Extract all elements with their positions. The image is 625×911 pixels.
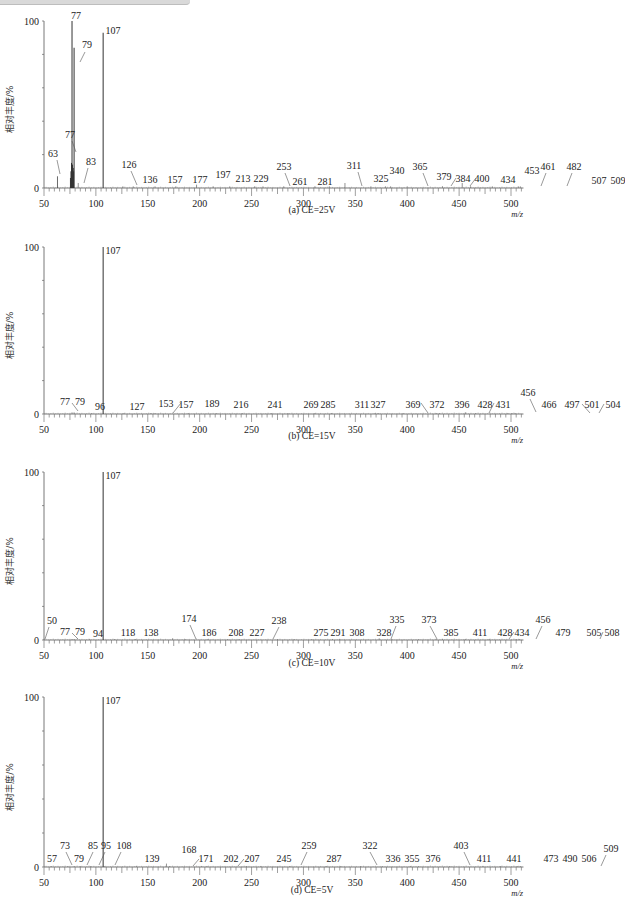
label-leader-line [238,859,244,866]
label-leader-line [464,852,470,865]
peak-label: 77 [60,396,70,407]
peak-label: 107 [106,25,121,36]
peak-label: 216 [234,399,249,410]
x-tick-label: 250 [244,877,259,888]
peak-label: 208 [229,627,244,638]
peak-label: 213 [236,173,251,184]
x-tick-label: 50 [39,198,49,209]
peak-label: 355 [405,853,420,864]
peak-label: 139 [145,853,160,864]
peak-label: 506 [582,853,597,864]
peak-label: 376 [426,853,441,864]
peak-label: 261 [293,176,308,187]
x-tick-label: 50 [39,424,49,435]
peak-label: 509 [611,175,625,186]
label-leader-line [567,173,572,186]
peak-label: 322 [363,840,378,851]
spectrum-panel-d: 1000相对丰度/%50100150200250300350400450500m… [4,692,619,898]
x-tick-label: 250 [244,650,259,661]
peak-label: 107 [106,695,121,706]
x-tick-label: 200 [192,877,207,888]
peak-label: 327 [371,399,386,410]
peak-label: 466 [542,399,557,410]
spectrum-panel-a: 1000相对丰度/%50100150200250300350400450500m… [4,10,625,219]
peak-label: 77 [71,10,81,21]
peak-label: 127 [130,401,145,412]
x-tick-label: 100 [88,877,103,888]
label-leader-line [301,852,307,865]
peak-label: 253 [277,161,292,172]
label-leader-line [131,171,137,185]
label-leader-line [601,855,606,866]
x-axis-label: m/z [511,435,524,445]
peak-label: 411 [473,627,488,638]
label-leader-line [115,852,121,865]
x-tick-label: 500 [504,198,519,209]
label-leader-line [358,172,362,186]
peak-label: 441 [507,853,522,864]
label-leader-line [599,404,604,413]
peak-label: 138 [144,627,159,638]
x-tick-label: 350 [348,877,363,888]
peak-label: 174 [182,613,197,624]
label-leader-line [57,160,60,174]
x-tick-label: 400 [400,424,415,435]
x-tick-label: 150 [140,877,155,888]
peak-label: 186 [202,627,217,638]
x-tick-label: 350 [348,650,363,661]
y-tick-0: 0 [34,635,39,646]
panel-caption: (d) CE=5V [291,885,334,896]
y-tick-100: 100 [24,692,39,703]
peak-label: 456 [521,387,536,398]
peak-label: 311 [355,399,370,410]
peak-label: 171 [199,853,214,864]
label-leader-line [66,852,72,865]
peak-label: 107 [106,245,121,256]
peak-label: 431 [496,399,511,410]
x-tick-label: 150 [140,650,155,661]
x-tick-label: 50 [39,650,49,661]
peak-label: 411 [477,853,492,864]
peak-label: 373 [422,614,437,625]
peak-label: 238 [272,615,287,626]
peak-label: 73 [60,840,70,851]
y-axis-label: 相对丰度/% [4,311,15,359]
y-tick-100: 100 [24,242,39,253]
label-leader-line [423,173,428,186]
peak-label: 281 [318,176,333,187]
mass-spectra-figure: 1000相对丰度/%50100150200250300350400450500m… [0,0,625,911]
peak-label: 77 [65,129,75,140]
peak-label: 508 [605,627,620,638]
x-tick-label: 350 [348,424,363,435]
peak-label: 287 [327,853,342,864]
x-tick-label: 100 [88,424,103,435]
label-leader-line [541,173,546,186]
x-axis-label: m/z [511,888,524,898]
peak-label: 77 [60,626,70,637]
x-tick-label: 150 [140,424,155,435]
label-leader-line [45,627,49,639]
y-tick-0: 0 [34,862,39,873]
peak-label: 336 [386,853,401,864]
label-leader-line [430,626,437,639]
label-leader-line [190,625,196,639]
x-tick-label: 450 [452,198,467,209]
y-tick-100: 100 [24,16,39,27]
label-leader-line [421,403,428,413]
peak-label: 335 [390,614,405,625]
x-tick-label: 100 [88,198,103,209]
x-tick-label: 500 [504,424,519,435]
x-tick-label: 350 [348,198,363,209]
peak-label: 328 [377,627,392,638]
peak-label: 291 [331,627,346,638]
x-tick-label: 100 [88,650,103,661]
peak-label: 107 [106,470,121,481]
peak-label: 202 [224,853,239,864]
peak-label: 95 [101,840,111,851]
label-leader-line [99,852,105,865]
panel-caption: (b) CE=15V [288,431,335,442]
peak-label: 434 [515,627,530,638]
peak-label: 79 [75,396,85,407]
peak-label: 241 [268,399,283,410]
peak-label: 157 [168,174,183,185]
